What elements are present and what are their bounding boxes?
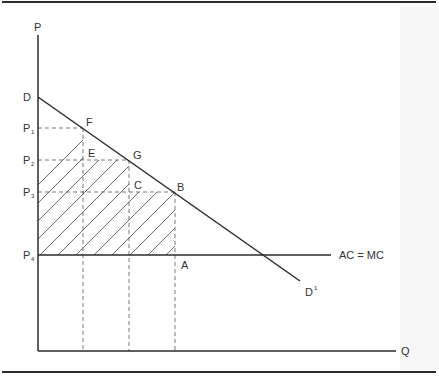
label-p2-sub: 2 — [31, 161, 35, 167]
label-p4: P — [23, 249, 30, 261]
label-a: A — [181, 259, 189, 271]
dashed-guides — [38, 128, 175, 351]
label-p4-sub: 4 — [31, 256, 35, 262]
label-demand-d1: D — [305, 286, 313, 298]
hatched-surplus-area — [0, 95, 344, 275]
label-p1-sub: 1 — [31, 129, 35, 135]
label-f: F — [86, 116, 93, 128]
label-g: G — [133, 149, 142, 161]
label-p2: P — [23, 154, 30, 166]
price-axis-label: P — [34, 21, 41, 33]
label-p1: P — [23, 122, 30, 134]
label-p3-sub: 3 — [31, 193, 35, 199]
price-discrimination-diagram: P Q D P 1 P 2 P 3 P 4 F E G C B A AC = M… — [0, 0, 439, 388]
label-b: B — [177, 181, 184, 193]
label-ac-mc: AC = MC — [339, 249, 384, 261]
label-d: D — [23, 91, 31, 103]
label-demand-d1-sup: 1 — [314, 285, 318, 291]
label-e: E — [88, 147, 95, 159]
quantity-axis-label: Q — [401, 345, 410, 357]
label-p3: P — [23, 186, 30, 198]
label-c: C — [134, 179, 142, 191]
